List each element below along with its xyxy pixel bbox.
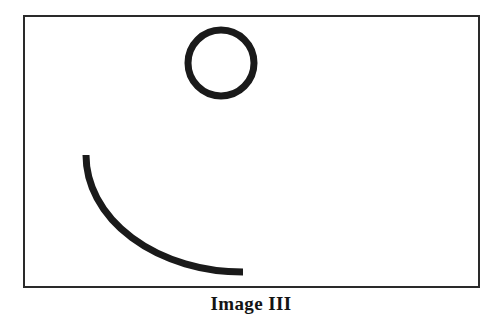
figure-caption: Image III — [0, 293, 502, 315]
figure-drawing-canvas — [0, 0, 502, 325]
figure-panel: Image III — [0, 0, 502, 325]
